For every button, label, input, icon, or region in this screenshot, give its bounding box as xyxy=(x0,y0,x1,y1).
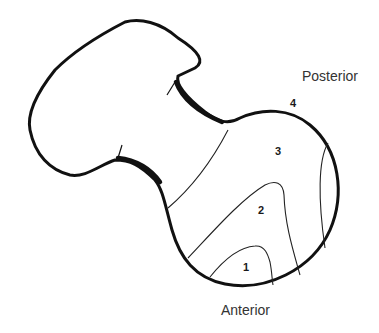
contour-line-3 xyxy=(168,130,228,208)
region-label-2: 2 xyxy=(258,204,264,216)
region-label-1: 1 xyxy=(243,261,249,273)
posterior-label: Posterior xyxy=(302,68,358,84)
bone-outline-diagram xyxy=(0,0,379,333)
region-label-4: 4 xyxy=(290,97,296,109)
region-label-3: 3 xyxy=(275,145,281,157)
contour-line-right xyxy=(320,143,328,248)
contour-line-1 xyxy=(210,246,273,285)
neck-tick-upper xyxy=(167,82,175,95)
neck-shading-upper xyxy=(176,82,222,122)
anterior-label: Anterior xyxy=(221,302,270,318)
